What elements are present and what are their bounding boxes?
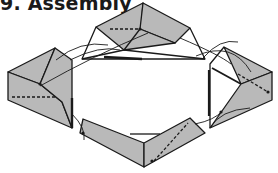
- bottom-unit: [80, 118, 205, 167]
- assembly-diagram: [0, 0, 278, 173]
- left-unit: [8, 48, 72, 128]
- top-unit: [82, 3, 205, 59]
